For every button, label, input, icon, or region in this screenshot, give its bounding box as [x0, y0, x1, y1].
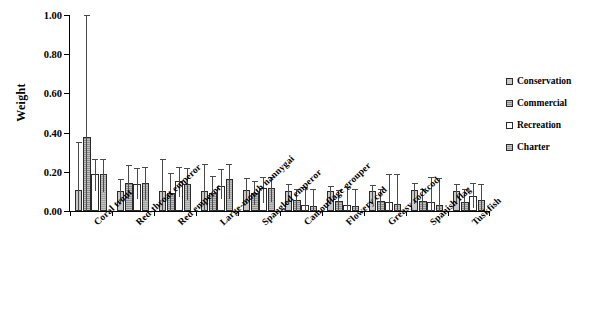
error-bar-cap: [126, 165, 132, 166]
y-tick-label: 0.40: [22, 127, 62, 138]
error-bar-cap: [160, 159, 166, 160]
error-bar: [473, 183, 474, 208]
error-bar-cap: [252, 181, 258, 182]
error-bar-cap: [310, 189, 316, 190]
bar-group: [364, 15, 406, 211]
error-bar-cap: [202, 164, 208, 165]
error-bar: [221, 169, 222, 199]
error-bar: [145, 167, 146, 200]
error-bar: [389, 174, 390, 211]
y-tick-label: 1.00: [22, 10, 62, 21]
error-bar-cap: [100, 159, 106, 160]
error-bar-cap: [352, 189, 358, 190]
bar-group: [448, 15, 490, 211]
error-bar-cap: [328, 186, 334, 187]
error-bar-cap: [142, 167, 148, 168]
error-bar-cap: [286, 184, 292, 185]
error-bar-cap: [478, 184, 484, 185]
y-tick-label: 0.80: [22, 49, 62, 60]
error-bar: [137, 168, 138, 199]
legend-swatch: [506, 78, 513, 85]
legend-item-conservation: Conservation: [506, 70, 571, 92]
error-bar-cap: [84, 15, 90, 16]
legend-swatch: [506, 144, 513, 151]
error-bar-cap: [176, 167, 182, 168]
error-bar: [481, 184, 482, 211]
legend-item-commercial: Commercial: [506, 92, 571, 114]
error-bar-cap: [168, 173, 174, 174]
error-bar-cap: [470, 183, 476, 184]
error-bar: [229, 164, 230, 199]
error-bar: [95, 159, 96, 191]
error-bar-cap: [226, 164, 232, 165]
error-bar: [103, 159, 104, 192]
error-bar-cap: [386, 174, 392, 175]
chart-figure: Weight 0.000.200.400.600.801.00 Coral tr…: [0, 0, 596, 315]
legend: ConservationCommercialRecreationCharter: [506, 70, 571, 158]
legend-label: Conservation: [517, 76, 571, 86]
legend-item-charter: Charter: [506, 136, 571, 158]
y-tick-label: 0.00: [22, 206, 62, 217]
error-bar-cap: [92, 159, 98, 160]
error-bar: [397, 174, 398, 211]
bar-group: [70, 15, 112, 211]
error-bar-cap: [218, 169, 224, 170]
error-bar-cap: [244, 178, 250, 179]
error-bar-cap: [118, 179, 124, 180]
legend-item-recreation: Recreation: [506, 114, 571, 136]
error-bar-cap: [454, 184, 460, 185]
legend-swatch: [506, 100, 513, 107]
y-tick-label: 0.60: [22, 88, 62, 99]
bar-group: [112, 15, 154, 211]
legend-swatch: [506, 122, 513, 129]
legend-label: Recreation: [517, 120, 561, 130]
legend-label: Commercial: [517, 98, 567, 108]
error-bar-cap: [412, 183, 418, 184]
error-bar: [78, 142, 79, 211]
x-tick-mark: [70, 211, 71, 216]
legend-label: Charter: [517, 142, 550, 152]
y-tick-label: 0.20: [22, 166, 62, 177]
error-bar: [86, 15, 87, 211]
error-bar-cap: [370, 185, 376, 186]
error-bar-cap: [134, 168, 140, 169]
error-bar-cap: [210, 176, 216, 177]
error-bar-cap: [76, 142, 82, 143]
error-bar-cap: [394, 174, 400, 175]
